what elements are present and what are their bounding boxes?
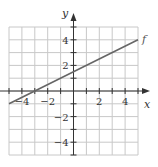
y-axis-arrow-icon xyxy=(71,13,77,21)
x-axis-arrow-icon xyxy=(142,88,150,94)
x-tick-label: 2 xyxy=(96,96,102,107)
function-label: f xyxy=(141,33,148,46)
y-axis-label: y xyxy=(61,7,69,20)
function-graph: −4−224−4−224 y x f xyxy=(0,0,158,167)
x-axis-label: x xyxy=(144,98,151,111)
x-tick-label: −2 xyxy=(40,96,55,107)
x-tick-label: 4 xyxy=(122,96,128,107)
axes xyxy=(0,13,150,155)
y-tick-label: −2 xyxy=(54,112,69,123)
y-tick-label: 4 xyxy=(62,35,68,46)
y-tick-label: −4 xyxy=(54,137,69,148)
y-tick-label: 2 xyxy=(62,60,68,71)
